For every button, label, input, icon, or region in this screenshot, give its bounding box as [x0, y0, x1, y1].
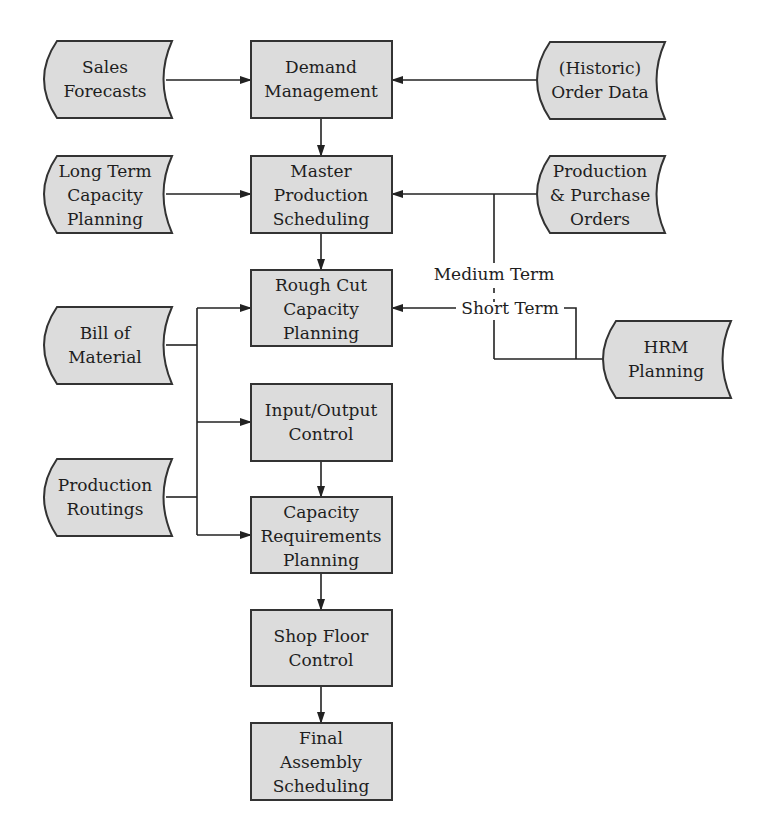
label-line: Production — [553, 161, 648, 181]
label-line: Planning — [628, 361, 704, 381]
label-line: Master — [290, 161, 352, 181]
label-line: Assembly — [279, 752, 362, 772]
label-line: & Purchase — [550, 185, 650, 205]
process-input-output-control[interactable]: Input/Output Control — [251, 384, 392, 461]
label-line: Orders — [570, 209, 630, 229]
label-line: Requirements — [260, 526, 381, 546]
label-line: Rough Cut — [275, 275, 367, 295]
flowchart-canvas: Medium Term Short Term Sales Forecasts L… — [0, 0, 770, 835]
process-capacity-requirements-planning[interactable]: Capacity Requirements Planning — [251, 497, 392, 573]
label-line: HRM — [643, 337, 688, 357]
label-line: Demand — [285, 57, 357, 77]
label-line: Scheduling — [273, 776, 370, 796]
data-source-production-routings[interactable]: Production Routings — [44, 459, 172, 536]
label-line: Bill of — [80, 323, 132, 343]
label-line: Production — [274, 185, 369, 205]
label-line: Forecasts — [63, 81, 146, 101]
process-rough-cut-capacity-planning[interactable]: Rough Cut Capacity Planning — [251, 270, 392, 346]
label-line: Capacity — [283, 299, 359, 319]
label-line: Shop Floor — [274, 626, 370, 646]
edge-label-medium-term: Medium Term — [434, 264, 555, 284]
label-line: Planning — [283, 550, 359, 570]
label-line: Control — [289, 650, 354, 670]
label-line: Final — [299, 728, 343, 748]
label-line: Planning — [67, 209, 143, 229]
label-line: Material — [68, 347, 142, 367]
process-final-assembly-scheduling[interactable]: Final Assembly Scheduling — [251, 723, 392, 800]
process-demand-management[interactable]: Demand Management — [251, 41, 392, 118]
label-line: Input/Output — [265, 400, 378, 420]
label-line: Order Data — [551, 82, 648, 102]
data-source-hrm-planning[interactable]: HRM Planning — [603, 321, 731, 398]
data-source-long-term-capacity-planning[interactable]: Long Term Capacity Planning — [44, 156, 172, 233]
label-line: Capacity — [67, 185, 143, 205]
label-line: Long Term — [58, 161, 151, 181]
label-line: Planning — [283, 323, 359, 343]
data-source-bill-of-material[interactable]: Bill of Material — [44, 307, 172, 384]
edge-short-term-bracket — [564, 308, 576, 359]
data-source-historic-order-data[interactable]: (Historic) Order Data — [537, 42, 665, 119]
label-line: Management — [264, 81, 378, 101]
process-shop-floor-control[interactable]: Shop Floor Control — [251, 610, 392, 686]
label-line: (Historic) — [559, 58, 641, 78]
label-line: Sales — [82, 57, 128, 77]
label-line: Production — [58, 475, 153, 495]
label-line: Control — [289, 424, 354, 444]
label-line: Scheduling — [273, 209, 370, 229]
label-line: Routings — [67, 499, 144, 519]
label-line: Capacity — [283, 502, 359, 522]
data-source-sales-forecasts[interactable]: Sales Forecasts — [44, 41, 172, 118]
process-master-production-scheduling[interactable]: Master Production Scheduling — [251, 156, 392, 233]
data-source-production-purchase-orders[interactable]: Production & Purchase Orders — [537, 156, 665, 233]
edge-label-short-term: Short Term — [461, 298, 559, 318]
